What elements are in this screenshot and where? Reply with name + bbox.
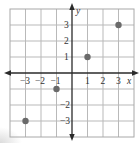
y-tick-label: 1 (64, 52, 69, 62)
y-axis-label: y (75, 6, 81, 16)
y-axis (69, 3, 74, 141)
coordinate-plane: y x −3 −2 −1 1 2 3 3 2 1 −2 −3 (0, 0, 139, 143)
y-tick-label: −3 (60, 116, 70, 126)
data-point (84, 54, 90, 60)
y-tick-label: −2 (60, 100, 70, 110)
y-tick-label: 2 (64, 36, 69, 46)
x-tick-label: −3 (20, 76, 30, 86)
x-axis-left-arrow-icon (4, 70, 11, 75)
y-tick-label: 3 (64, 20, 69, 30)
y-axis-up-arrow-icon (69, 3, 74, 10)
x-tick-labels: −3 −2 −1 1 2 3 (20, 76, 121, 86)
x-tick-label: 2 (101, 76, 106, 86)
x-tick-label: 3 (116, 76, 121, 86)
x-tick-label: −2 (35, 76, 45, 86)
data-point (115, 22, 121, 28)
data-point (53, 86, 59, 92)
x-axis-label: x (126, 76, 132, 86)
data-point (22, 118, 28, 124)
x-axis-right-arrow-icon (132, 70, 139, 75)
x-tick-label: 1 (85, 76, 90, 86)
x-tick-label: −1 (51, 76, 61, 86)
